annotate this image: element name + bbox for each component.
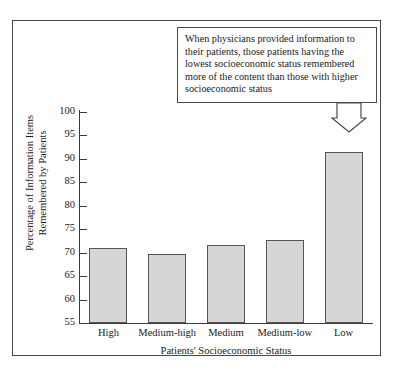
y-axis-title-line1: Percentage of Information Items	[23, 93, 36, 273]
callout-box: When physicians provided information to …	[177, 27, 377, 103]
y-axis-tick-label: 75	[44, 223, 75, 235]
y-axis-tick	[80, 112, 87, 113]
y-axis-tick-label: 55	[44, 317, 75, 329]
y-axis-tick-label-text: 65	[45, 270, 75, 281]
x-axis-tick-label: Medium-high	[138, 327, 197, 338]
y-axis-tick	[80, 229, 87, 230]
x-axis-tick-label: Medium	[197, 327, 256, 338]
y-axis-tick-label: 65	[44, 270, 75, 282]
y-axis-tick-label: 85	[44, 176, 75, 188]
figure-container: Percentage of Information Items Remember…	[0, 0, 393, 376]
y-axis-tick-label-text: 70	[45, 247, 75, 258]
x-axis-tick-label: Medium-low	[255, 327, 314, 338]
y-axis-tick-label: 95	[44, 129, 75, 141]
y-axis-tick	[80, 300, 87, 301]
callout-text: When physicians provided information to …	[185, 33, 369, 96]
y-axis-tick	[80, 323, 87, 324]
y-axis-tick	[80, 159, 87, 160]
bar	[89, 248, 127, 323]
y-axis-tick-label-text: 90	[45, 153, 75, 164]
y-axis-tick-label-text: 60	[45, 294, 75, 305]
y-axis-tick	[80, 253, 87, 254]
y-axis-tick-label-text: 85	[45, 176, 75, 187]
y-axis-tick	[80, 135, 87, 136]
y-axis-tick-label: 90	[44, 153, 75, 165]
y-axis-tick-label: 70	[44, 247, 75, 259]
y-axis-tick-label: 100	[44, 106, 75, 118]
y-axis-tick	[80, 276, 87, 277]
y-axis-line	[79, 110, 80, 324]
x-axis-tick-label: Low	[314, 327, 373, 338]
y-axis-tick-label-text: 95	[45, 129, 75, 140]
y-axis-tick-label: 80	[44, 200, 75, 212]
y-axis-tick-label-text: 100	[45, 106, 75, 117]
x-axis-line	[79, 323, 373, 324]
x-axis-tick-label: High	[79, 327, 138, 338]
y-axis-tick	[80, 182, 87, 183]
x-axis-title: Patients' Socioeconomic Status	[79, 345, 373, 356]
bar	[207, 245, 245, 323]
y-axis-tick	[80, 206, 87, 207]
y-axis-tick-label-text: 55	[45, 317, 75, 328]
y-axis-tick-label: 60	[44, 294, 75, 306]
y-axis-tick-label-text: 75	[45, 223, 75, 234]
bar	[325, 152, 363, 323]
y-axis-tick-label-text: 80	[45, 200, 75, 211]
callout-arrow-icon	[331, 102, 367, 133]
bar	[148, 254, 186, 323]
bar	[266, 240, 304, 323]
